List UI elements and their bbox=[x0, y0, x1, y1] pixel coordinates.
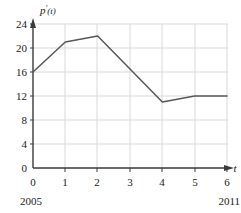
year-label-start: 2005 bbox=[20, 195, 43, 207]
y-tick-label-12: 12 bbox=[16, 90, 27, 102]
year-label-end: 2011 bbox=[218, 195, 240, 207]
y-tick-label-0: 0 bbox=[22, 162, 28, 174]
y-tick-label-4: 4 bbox=[22, 138, 28, 150]
y-axis-title-arg: (t) bbox=[47, 6, 56, 16]
x-tick-label-0: 0 bbox=[30, 176, 36, 188]
y-tick-label-20: 20 bbox=[16, 42, 28, 54]
y-axis-title: p′(t) bbox=[39, 4, 56, 16]
y-tick-label-8: 8 bbox=[22, 114, 28, 126]
y-tick-label-24: 24 bbox=[16, 18, 28, 30]
chart-figure: 24 20 16 12 8 4 0 0 1 2 3 4 5 6 p′(t) t … bbox=[0, 0, 241, 213]
x-tick-label-2: 2 bbox=[94, 176, 100, 188]
x-tick-label-6: 6 bbox=[224, 176, 230, 188]
x-tick-label-1: 1 bbox=[62, 176, 68, 188]
x-tick-label-4: 4 bbox=[159, 176, 165, 188]
y-tick-label-16: 16 bbox=[16, 66, 28, 78]
chart-background bbox=[0, 0, 241, 213]
x-tick-label-5: 5 bbox=[192, 176, 198, 188]
x-tick-label-3: 3 bbox=[127, 176, 133, 188]
